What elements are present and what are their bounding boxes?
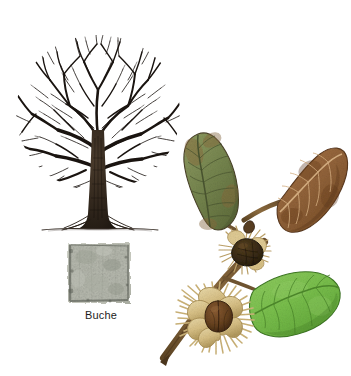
leaf-brown (277, 148, 347, 232)
fruiting-branch-illustration (140, 100, 351, 366)
bark-figure (66, 241, 132, 305)
branch-figure (140, 100, 351, 366)
leaf-green (250, 272, 341, 337)
bark-swatch-image (66, 241, 132, 305)
tree-trunk (62, 130, 134, 230)
cupule-open (176, 282, 254, 354)
leaf-olive (181, 129, 242, 230)
cupule-closed (219, 221, 271, 274)
botanical-plate: Buche (0, 0, 351, 376)
